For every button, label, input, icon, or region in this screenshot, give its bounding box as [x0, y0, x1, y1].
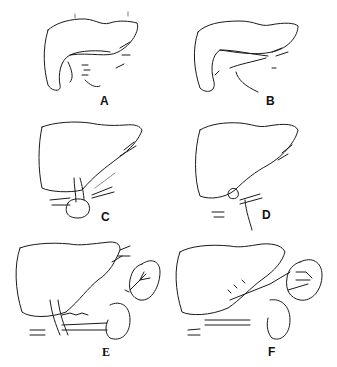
panel-a-drawing	[44, 12, 137, 90]
panel-b-drawing	[194, 21, 298, 92]
panel-label-f: F	[268, 345, 275, 359]
panel-e-drawing	[16, 242, 160, 339]
panel-label-a: A	[100, 94, 109, 108]
panel-label-e: E	[102, 345, 110, 360]
panel-label-c: C	[101, 210, 110, 224]
panel-f-drawing	[176, 244, 322, 339]
panel-d-drawing	[196, 123, 299, 230]
liver-illustrations	[0, 0, 337, 367]
panel-label-d: D	[262, 208, 271, 222]
panel-c-drawing	[39, 122, 142, 218]
panel-label-b: B	[266, 94, 275, 108]
